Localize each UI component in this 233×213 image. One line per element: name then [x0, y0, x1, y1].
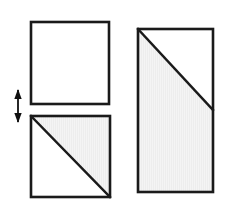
empty-square [31, 22, 109, 104]
figure-container: Paper folding diagram: two squares and a… [0, 0, 233, 213]
empty-square-outline [31, 22, 109, 104]
figure-canvas [0, 0, 233, 213]
